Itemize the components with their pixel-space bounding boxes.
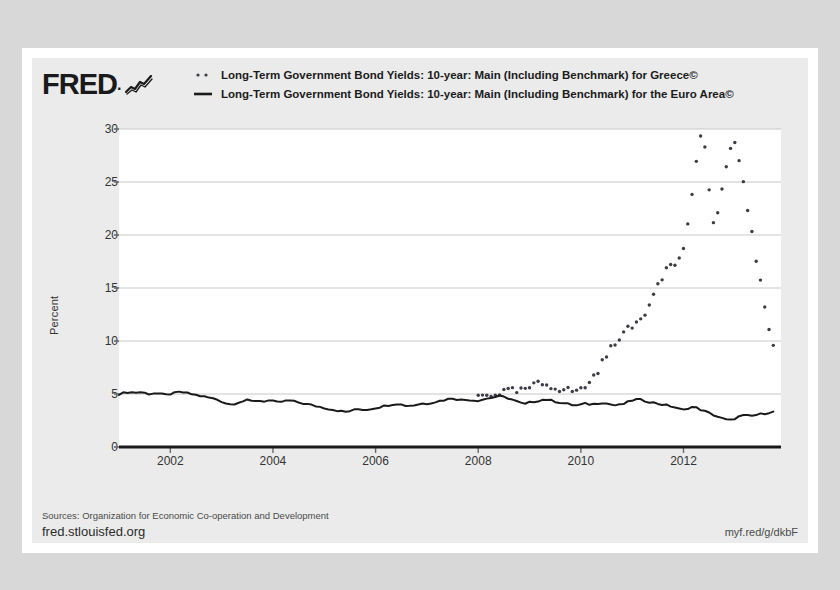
graph-header: FRED . Long-Term Government Bond Yields:… — [32, 58, 808, 120]
plot-area-wrapper: Percent 051015202530 2002200420062008201… — [32, 120, 808, 510]
fred-wordmark: FRED — [42, 70, 117, 99]
x-tick-2008: 2008 — [465, 454, 492, 468]
x-tick-2004: 2004 — [260, 454, 287, 468]
sources-text: Sources: Organization for Economic Co-op… — [42, 510, 329, 521]
legend-label-euro-area: Long-Term Government Bond Yields: 10-yea… — [221, 87, 734, 101]
fred-graph: FRED . Long-Term Government Bond Yields:… — [32, 58, 808, 543]
x-tick-2006: 2006 — [362, 454, 389, 468]
fred-squiggle-icon — [125, 75, 155, 99]
legend-item-greece[interactable]: Long-Term Government Bond Yields: 10-yea… — [192, 68, 802, 87]
graph-footer: Sources: Organization for Economic Co-op… — [32, 510, 808, 543]
x-tick-2002: 2002 — [157, 454, 184, 468]
fred-wordmark-dot: . — [117, 76, 121, 94]
legend-marker-dotted-icon — [192, 68, 218, 82]
fred-site-url[interactable]: fred.stlouisfed.org — [42, 524, 145, 539]
graph-short-url[interactable]: myf.red/g/dkbF — [725, 526, 798, 538]
fred-logo: FRED . — [42, 70, 155, 99]
legend-label-greece: Long-Term Government Bond Yields: 10-yea… — [221, 68, 698, 82]
x-tick-2012: 2012 — [670, 454, 697, 468]
plot-canvas — [32, 120, 808, 470]
chart-legend: Long-Term Government Bond Yields: 10-yea… — [192, 68, 802, 106]
x-tick-2010: 2010 — [568, 454, 595, 468]
legend-marker-solid-icon — [192, 87, 218, 101]
legend-item-euro-area[interactable]: Long-Term Government Bond Yields: 10-yea… — [192, 87, 802, 106]
